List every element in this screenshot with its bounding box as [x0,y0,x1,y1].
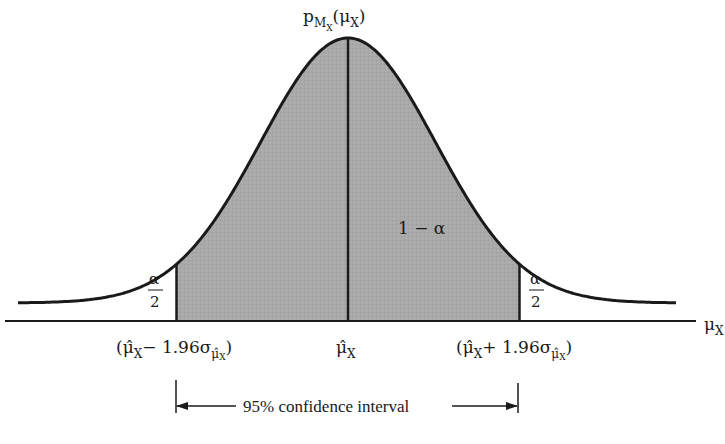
upper-bound-label: (μ̂X+ 1.96σμ̂X) [456,337,572,362]
density-label: pMX(μX) [303,6,366,33]
left-tail-numerator: α [149,270,159,288]
right-tail-numerator: α [530,270,540,288]
lower-bound-label: (μ̂X− 1.96σμ̂X) [116,337,232,362]
confidence-interval-bracket: 95% confidence interval [176,380,518,416]
confidence-interval-diagram: pMX(μX) 1 − α α 2 α 2 μX (μ̂X− 1.96σμ̂X)… [0,0,725,444]
right-tail-denominator: 2 [531,293,541,311]
central-area-label: 1 − α [398,218,446,238]
center-label: μ̂X [336,337,356,361]
left-tail-denominator: 2 [150,293,160,311]
interval-caption: 95% confidence interval [243,397,409,416]
x-axis-label: μX [704,314,724,338]
right-tail-label: α 2 [529,270,544,311]
